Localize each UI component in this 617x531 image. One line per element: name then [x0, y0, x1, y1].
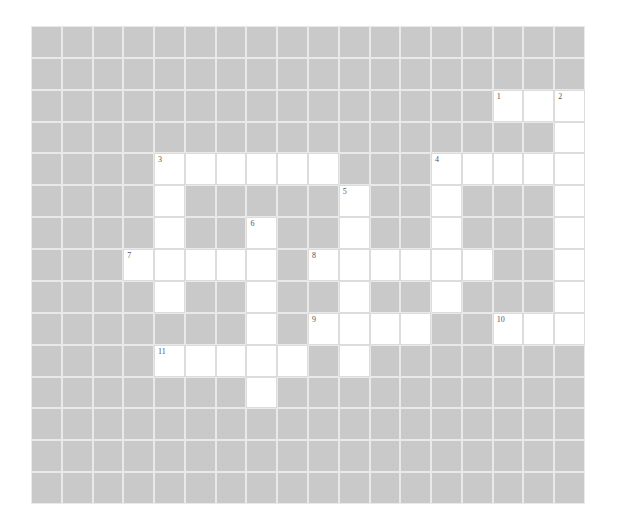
crossword-cell-block: [494, 250, 523, 280]
crossword-cell-open[interactable]: [155, 250, 184, 280]
crossword-cell-block: [309, 218, 338, 248]
crossword-cell-open[interactable]: [340, 346, 369, 376]
crossword-cell-open[interactable]: [309, 154, 338, 184]
crossword-cell-open[interactable]: [524, 91, 553, 121]
crossword-cell-block: [278, 27, 307, 57]
crossword-cell-block: [309, 346, 338, 376]
crossword-cell-open[interactable]: [186, 154, 215, 184]
crossword-cell-open[interactable]: [432, 250, 461, 280]
crossword-cell-open[interactable]: [555, 314, 584, 344]
crossword-cell-open[interactable]: [371, 250, 400, 280]
crossword-cell-open[interactable]: [555, 123, 584, 153]
crossword-cell-block: [463, 346, 492, 376]
crossword-cell-open[interactable]: [247, 378, 276, 408]
crossword-cell-open[interactable]: 9: [309, 314, 338, 344]
crossword-cell-open[interactable]: [524, 314, 553, 344]
crossword-cell-block: [524, 346, 553, 376]
crossword-cell-open[interactable]: [340, 250, 369, 280]
crossword-cell-block: [371, 378, 400, 408]
crossword-cell-open[interactable]: 7: [124, 250, 153, 280]
crossword-cell-block: [186, 314, 215, 344]
crossword-cell-block: [309, 473, 338, 503]
crossword-cell-block: [94, 186, 123, 216]
crossword-cell-block: [124, 123, 153, 153]
crossword-cell-open[interactable]: [432, 186, 461, 216]
crossword-cell-open[interactable]: [278, 346, 307, 376]
crossword-cell-open[interactable]: [217, 346, 246, 376]
crossword-cell-open[interactable]: [247, 282, 276, 312]
crossword-cell-block: [278, 441, 307, 471]
crossword-cell-block: [63, 282, 92, 312]
crossword-cell-block: [463, 441, 492, 471]
crossword-cell-block: [94, 346, 123, 376]
crossword-cell-block: [463, 27, 492, 57]
crossword-cell-open[interactable]: [463, 154, 492, 184]
crossword-cell-open[interactable]: 6: [247, 218, 276, 248]
crossword-cell-open[interactable]: [278, 154, 307, 184]
crossword-cell-open[interactable]: 3: [155, 154, 184, 184]
crossword-cell-block: [247, 441, 276, 471]
crossword-cell-open[interactable]: [155, 218, 184, 248]
crossword-cell-block: [94, 27, 123, 57]
crossword-cell-block: [309, 378, 338, 408]
crossword-cell-block: [278, 378, 307, 408]
crossword-cell-open[interactable]: [371, 314, 400, 344]
crossword-cell-open[interactable]: [155, 186, 184, 216]
crossword-cell-open[interactable]: [555, 154, 584, 184]
crossword-cell-open[interactable]: [555, 186, 584, 216]
crossword-cell-open[interactable]: [217, 250, 246, 280]
crossword-cell-open[interactable]: [432, 218, 461, 248]
crossword-cell-block: [217, 59, 246, 89]
crossword-cell-open[interactable]: 11: [155, 346, 184, 376]
crossword-cell-open[interactable]: [494, 154, 523, 184]
crossword-cell-block: [524, 250, 553, 280]
crossword-cell-open[interactable]: [555, 250, 584, 280]
crossword-cell-open[interactable]: [555, 282, 584, 312]
crossword-cell-block: [186, 282, 215, 312]
crossword-cell-block: [494, 218, 523, 248]
crossword-cell-open[interactable]: [217, 154, 246, 184]
crossword-cell-open[interactable]: 8: [309, 250, 338, 280]
crossword-cell-block: [32, 409, 61, 439]
crossword-cell-open[interactable]: [247, 154, 276, 184]
crossword-cell-block: [371, 154, 400, 184]
crossword-cell-open[interactable]: 5: [340, 186, 369, 216]
crossword-cell-block: [371, 473, 400, 503]
crossword-cell-block: [494, 409, 523, 439]
crossword-cell-block: [371, 441, 400, 471]
crossword-cell-block: [432, 123, 461, 153]
crossword-cell-block: [32, 91, 61, 121]
crossword-cell-open[interactable]: [340, 218, 369, 248]
crossword-cell-open[interactable]: [247, 346, 276, 376]
crossword-cell-block: [155, 441, 184, 471]
crossword-cell-block: [63, 250, 92, 280]
crossword-cell-open[interactable]: [155, 282, 184, 312]
crossword-cell-block: [32, 282, 61, 312]
clue-number: 7: [127, 252, 131, 260]
crossword-cell-open[interactable]: [555, 218, 584, 248]
crossword-cell-open[interactable]: 2: [555, 91, 584, 121]
crossword-cell-open[interactable]: [524, 154, 553, 184]
crossword-cell-block: [94, 218, 123, 248]
crossword-cell-open[interactable]: [247, 314, 276, 344]
crossword-cell-block: [371, 59, 400, 89]
crossword-cell-open[interactable]: [463, 250, 492, 280]
crossword-cell-open[interactable]: [186, 346, 215, 376]
crossword-cell-open[interactable]: [401, 314, 430, 344]
crossword-cell-block: [32, 59, 61, 89]
crossword-cell-open[interactable]: [340, 282, 369, 312]
crossword-cell-open[interactable]: 10: [494, 314, 523, 344]
crossword-cell-block: [63, 123, 92, 153]
crossword-cell-open[interactable]: [340, 314, 369, 344]
crossword-cell-open[interactable]: 1: [494, 91, 523, 121]
crossword-cell-open[interactable]: [247, 250, 276, 280]
crossword-cell-open[interactable]: [186, 250, 215, 280]
crossword-cell-open[interactable]: 4: [432, 154, 461, 184]
crossword-cell-block: [124, 346, 153, 376]
crossword-cell-open[interactable]: [432, 282, 461, 312]
crossword-cell-open[interactable]: [401, 250, 430, 280]
crossword-cell-block: [63, 27, 92, 57]
crossword-cell-block: [155, 59, 184, 89]
crossword-cell-block: [94, 123, 123, 153]
crossword-cell-block: [247, 473, 276, 503]
